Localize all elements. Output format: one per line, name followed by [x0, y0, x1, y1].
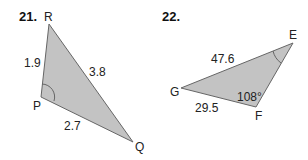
vertex-r: R: [44, 10, 53, 24]
vertex-g: G: [170, 85, 179, 99]
vertex-q: Q: [135, 140, 144, 154]
side-gf: 29.5: [195, 101, 219, 115]
side-rp: 1.9: [24, 56, 41, 70]
side-pq: 2.7: [64, 119, 81, 133]
side-rq: 3.8: [89, 65, 106, 79]
vertex-e: E: [289, 28, 297, 42]
angle-f-label: 108°: [237, 90, 262, 104]
vertex-f: F: [255, 109, 262, 123]
vertex-p: P: [33, 99, 41, 113]
side-ge: 47.6: [211, 52, 235, 66]
problem-21-number: 21.: [19, 9, 37, 24]
problem-22-number: 22.: [162, 9, 180, 24]
triangle-pqr: [41, 24, 133, 142]
figure: 21. R P Q 1.9 3.8 2.7 22. E G F 47.6 29.…: [0, 0, 308, 160]
